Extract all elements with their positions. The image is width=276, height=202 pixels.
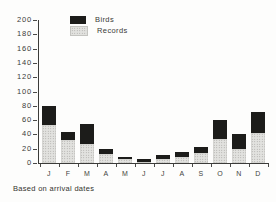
x-tick	[40, 164, 41, 167]
x-tick	[268, 164, 269, 167]
y-tick-label: 40	[0, 130, 32, 138]
x-tick	[116, 164, 117, 167]
bar-records-6	[137, 162, 151, 163]
x-tick	[78, 164, 79, 167]
x-category-label: S	[191, 170, 211, 177]
x-category-label: F	[58, 170, 78, 177]
bar-birds-10	[213, 120, 227, 139]
x-category-label: A	[172, 170, 192, 177]
y-tick	[33, 106, 37, 107]
bar-birds-7	[156, 155, 170, 159]
x-category-label: M	[115, 170, 135, 177]
bar-birds-11	[232, 134, 246, 148]
plot-area: 020406080100120140160180200JFMAMJJASOND	[0, 0, 276, 202]
bar-records-2	[61, 140, 75, 163]
bar-records-7	[156, 159, 170, 163]
y-tick	[33, 49, 37, 50]
x-tick	[192, 164, 193, 167]
y-tick-label: 180	[0, 30, 32, 38]
y-tick	[33, 92, 37, 93]
y-tick-label: 100	[0, 88, 32, 96]
x-tick	[135, 164, 136, 167]
y-tick	[33, 163, 37, 164]
x-category-label: A	[96, 170, 116, 177]
bar-birds-1	[42, 106, 56, 125]
x-category-label: N	[229, 170, 249, 177]
y-axis-line	[38, 20, 39, 164]
x-category-label: J	[134, 170, 154, 177]
x-category-label: J	[153, 170, 173, 177]
bar-records-11	[232, 149, 246, 163]
bar-records-8	[175, 157, 189, 163]
birds-swatch-icon	[70, 16, 86, 24]
x-tick	[173, 164, 174, 167]
bar-birds-6	[137, 159, 151, 161]
bar-birds-9	[194, 147, 208, 153]
y-tick	[33, 134, 37, 135]
bar-records-4	[99, 154, 113, 163]
x-category-label: D	[248, 170, 268, 177]
x-tick	[211, 164, 212, 167]
bar-birds-5	[118, 157, 132, 159]
y-tick	[33, 63, 37, 64]
y-tick-label: 80	[0, 102, 32, 110]
y-tick-label: 0	[0, 159, 32, 167]
bar-birds-2	[61, 132, 75, 141]
x-tick	[249, 164, 250, 167]
legend-item-records: Records	[70, 25, 128, 36]
y-tick-label: 60	[0, 116, 32, 124]
y-tick-label: 140	[0, 59, 32, 67]
bar-records-10	[213, 139, 227, 163]
y-tick	[33, 34, 37, 35]
x-tick	[97, 164, 98, 167]
bar-records-1	[42, 125, 56, 163]
bar-birds-8	[175, 152, 189, 156]
x-category-label: O	[210, 170, 230, 177]
records-swatch-icon	[70, 26, 88, 36]
bar-records-3	[80, 144, 94, 163]
x-tick	[154, 164, 155, 167]
legend-label-birds: Birds	[95, 15, 114, 24]
x-category-label: J	[39, 170, 59, 177]
legend: Birds Records	[70, 14, 128, 36]
stacked-bar-chart-figure: 020406080100120140160180200JFMAMJJASOND …	[0, 0, 276, 202]
y-tick	[33, 77, 37, 78]
bar-records-12	[251, 133, 265, 163]
figure-caption: Based on arrival dates	[13, 184, 94, 193]
x-tick	[59, 164, 60, 167]
bar-birds-3	[80, 124, 94, 144]
y-tick	[33, 120, 37, 121]
legend-item-birds: Birds	[70, 14, 128, 25]
x-category-label: M	[77, 170, 97, 177]
y-tick-label: 120	[0, 73, 32, 81]
x-tick	[230, 164, 231, 167]
y-tick-label: 20	[0, 145, 32, 153]
bar-records-5	[118, 159, 132, 163]
bar-records-9	[194, 153, 208, 163]
y-tick-label: 200	[0, 16, 32, 24]
bar-birds-12	[251, 112, 265, 133]
bar-birds-4	[99, 149, 113, 154]
y-tick	[33, 149, 37, 150]
legend-label-records: Records	[97, 26, 128, 35]
y-tick-label: 160	[0, 45, 32, 53]
y-tick	[33, 20, 37, 21]
